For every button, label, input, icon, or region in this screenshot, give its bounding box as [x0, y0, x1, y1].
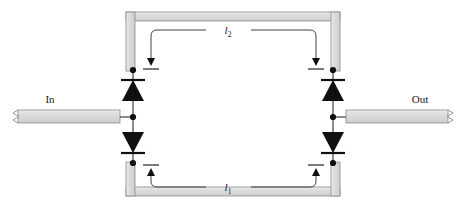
arrow-lower-left-head [147, 168, 155, 176]
dimension-lower-path [151, 172, 206, 187]
diode-bottom-left-triangle [122, 132, 144, 153]
dimension-upper-path [151, 30, 206, 62]
label-upper-arm-sub: 2 [228, 30, 232, 39]
input-waveguide [13, 110, 120, 123]
arrow-upper-right-head [312, 58, 320, 66]
output-waveguide [346, 110, 453, 123]
diode-top-left-triangle [122, 80, 144, 101]
dimension-upper-path-right [251, 30, 316, 62]
ring-segment-top [126, 12, 340, 21]
dimension-lower-path-right [251, 172, 316, 187]
ring-segment-left-lower [126, 162, 135, 196]
input-waveguide-bar [18, 110, 120, 123]
ring-segment-right [331, 12, 340, 71]
label-lower-arm-sub: 1 [228, 187, 232, 196]
label-upper-arm: l2 [225, 24, 232, 39]
diode-bottom-right [321, 132, 345, 153]
ring-resonator-svg: l2 l1 In Out [0, 0, 466, 204]
ring-segment-bottom [126, 187, 340, 196]
arrow-upper-left-head [147, 58, 155, 66]
ring-segment-right-lower [331, 162, 340, 196]
dimension-upper-arrowheads [143, 58, 324, 69]
dimension-upper-arm [151, 30, 316, 62]
dimension-lower-arrowheads [143, 165, 324, 176]
dimension-lower-arm [151, 172, 316, 187]
diode-top-right [321, 80, 345, 101]
circuit-wires [120, 70, 346, 163]
diode-bottom-right-triangle [322, 132, 344, 153]
ring-segment-left [126, 12, 135, 71]
arrow-lower-right-head [312, 168, 320, 176]
junction-mid-left [130, 114, 136, 120]
junction-top-left [130, 67, 136, 73]
junction-bottom-right [330, 160, 336, 166]
junction-bottom-left [130, 160, 136, 166]
junction-top-right [330, 67, 336, 73]
diode-top-right-triangle [322, 80, 344, 101]
junction-dots [130, 67, 336, 166]
ring-resonator-figure: l2 l1 In Out [0, 0, 466, 204]
diode-top-left [121, 80, 145, 101]
label-output-port: Out [412, 93, 429, 105]
junction-mid-right [330, 114, 336, 120]
label-input-port: In [45, 93, 55, 105]
ring-waveguide [126, 12, 340, 196]
output-waveguide-bar [346, 110, 448, 123]
diode-bottom-left [121, 132, 145, 153]
